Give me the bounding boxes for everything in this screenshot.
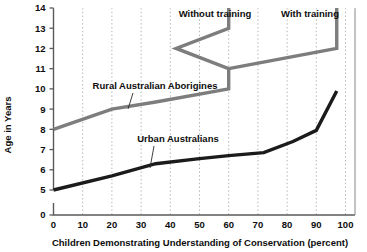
y-tick-label-8: 8 — [40, 124, 45, 135]
x-tick-label-80: 80 — [282, 219, 293, 230]
y-tick-label-7: 7 — [40, 144, 45, 155]
x-tick-label-0: 0 — [51, 219, 56, 230]
y-tick-label-0: 0 — [40, 209, 45, 220]
x-tick-label-10: 10 — [77, 219, 88, 230]
with-training-label: With training — [281, 8, 339, 19]
y-tick-label-9: 9 — [40, 104, 45, 115]
x-tick-label-60: 60 — [223, 219, 234, 230]
x-tick-label-20: 20 — [107, 219, 118, 230]
y-tick-label-5: 5 — [40, 184, 46, 195]
y-tick-label-10: 10 — [35, 83, 46, 94]
y-tick-label-13: 13 — [35, 23, 46, 34]
y-tick-label-12: 12 — [35, 43, 46, 54]
x-tick-label-50: 50 — [194, 219, 205, 230]
without-training-label: Without training — [179, 8, 252, 19]
rural-aborigines-label: Rural Australian Aborigines — [93, 80, 218, 91]
urban-australians-label: Urban Australians — [137, 133, 218, 144]
x-tick-label-40: 40 — [165, 219, 176, 230]
x-tick-label-70: 70 — [253, 219, 264, 230]
y-axis-title: Age in Years — [2, 97, 13, 154]
chart-canvas: 0567891011121314 0102030405060708090100 … — [0, 0, 367, 252]
x-axis-title: Children Demonstrating Understanding of … — [52, 237, 348, 248]
chart-background — [0, 0, 367, 252]
conservation-age-chart: 0567891011121314 0102030405060708090100 … — [0, 0, 367, 252]
y-tick-label-14: 14 — [35, 2, 46, 13]
y-tick-label-11: 11 — [35, 63, 46, 74]
x-tick-label-90: 90 — [311, 219, 322, 230]
y-tick-label-6: 6 — [40, 164, 45, 175]
x-tick-label-100: 100 — [338, 219, 354, 230]
x-tick-label-30: 30 — [136, 219, 147, 230]
